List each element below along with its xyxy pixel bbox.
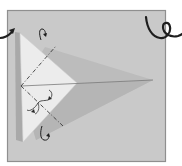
- origami-diagram: [0, 0, 182, 166]
